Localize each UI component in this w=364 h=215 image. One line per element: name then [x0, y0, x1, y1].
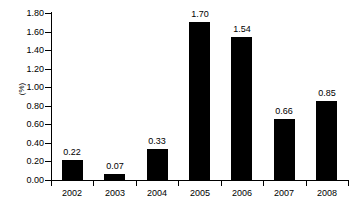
bar-value-label: 1.54	[226, 25, 258, 34]
x-axis-tick	[348, 181, 349, 186]
y-axis-tick	[45, 50, 51, 51]
y-axis-tick	[45, 143, 51, 144]
y-axis-tick-label-wrap: 0.60	[0, 120, 44, 129]
x-axis-tick-label: 2006	[224, 188, 260, 198]
bar	[62, 160, 83, 180]
y-axis-tick-label: 0.00	[0, 176, 44, 185]
y-axis-tick-label: 1.40	[0, 46, 44, 55]
y-axis-tick-label-wrap: 0.40	[0, 139, 44, 148]
y-axis-tick	[45, 161, 51, 162]
x-axis-tick-label: 2007	[266, 188, 302, 198]
bar-value-label: 0.22	[56, 148, 88, 157]
y-axis-tick-label-wrap: 0.00	[0, 176, 44, 185]
bar	[231, 37, 252, 180]
y-axis-tick-label: 1.20	[0, 65, 44, 74]
y-axis-tick-label: 1.60	[0, 28, 44, 37]
bar-value-label: 1.70	[184, 10, 216, 19]
x-axis-tick	[221, 181, 222, 186]
bar	[147, 149, 168, 180]
y-axis-tick	[45, 13, 51, 14]
x-axis-tick-label: 2008	[309, 188, 345, 198]
y-axis-tick-label-wrap: 1.40	[0, 46, 44, 55]
x-axis-line	[51, 180, 349, 181]
bar-value-label: 0.85	[311, 89, 343, 98]
bar	[104, 174, 125, 180]
bar	[274, 119, 295, 180]
y-axis-tick-label: 0.60	[0, 120, 44, 129]
bar	[316, 101, 337, 180]
x-axis-tick	[178, 181, 179, 186]
y-axis-tick	[45, 32, 51, 33]
x-axis-tick	[51, 181, 52, 186]
x-axis-tick-label: 2004	[139, 188, 175, 198]
x-axis-tick	[93, 181, 94, 186]
bar	[189, 22, 210, 180]
x-axis-tick	[136, 181, 137, 186]
bar-value-label: 0.07	[99, 162, 131, 171]
y-axis-line	[51, 12, 52, 181]
y-axis-tick	[45, 124, 51, 125]
y-axis-tick-label-wrap: 1.00	[0, 83, 44, 92]
x-axis-tick-label: 2002	[54, 188, 90, 198]
y-axis-tick	[45, 106, 51, 107]
bar-value-label: 0.33	[141, 137, 173, 146]
x-axis-tick	[306, 181, 307, 186]
y-axis-tick-label-wrap: 0.80	[0, 102, 44, 111]
y-axis-tick-label: 1.80	[0, 9, 44, 18]
y-axis-tick-label-wrap: 1.80	[0, 9, 44, 18]
y-axis-tick	[45, 69, 51, 70]
x-axis-tick-label: 2005	[182, 188, 218, 198]
y-axis-tick-label: 0.40	[0, 139, 44, 148]
y-axis-tick-label-wrap: 1.60	[0, 28, 44, 37]
y-axis-tick-label: 0.80	[0, 102, 44, 111]
y-axis-tick-label-wrap: 1.20	[0, 65, 44, 74]
x-axis-tick-label: 2003	[97, 188, 133, 198]
y-axis-tick-label: 0.20	[0, 157, 44, 166]
y-axis-tick-label: 1.00	[0, 83, 44, 92]
x-axis-tick	[263, 181, 264, 186]
bar-chart: (%) 0.000.200.400.600.801.001.201.401.60…	[0, 0, 364, 215]
y-axis-tick	[45, 87, 51, 88]
y-axis-tick-label-wrap: 0.20	[0, 157, 44, 166]
bar-value-label: 0.66	[268, 107, 300, 116]
